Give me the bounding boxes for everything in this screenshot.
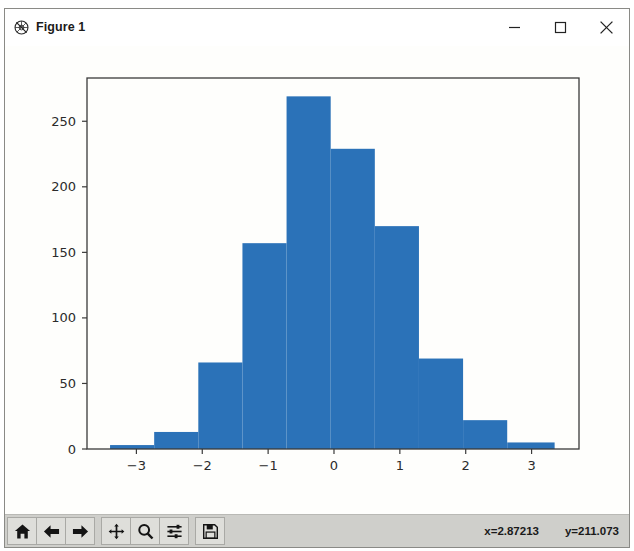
x-tick-label: −3 [127, 458, 146, 473]
pan-move-icon[interactable] [101, 517, 131, 545]
coord-y-value: y=211.073 [565, 525, 619, 537]
figure-canvas[interactable]: −3−2−10123 050100150200250 [5, 46, 629, 514]
window-controls [491, 9, 629, 45]
histogram-bar [507, 442, 554, 449]
y-tick-label: 100 [51, 310, 76, 325]
x-tick-label: 3 [527, 458, 535, 473]
histogram-bar [287, 96, 331, 449]
histogram-bar [154, 432, 198, 449]
maximize-icon[interactable] [537, 9, 583, 45]
coord-x-value: x=2.87213 [484, 525, 539, 537]
close-icon[interactable] [583, 9, 629, 45]
coordinate-readout: x=2.87213 y=211.073 [484, 515, 619, 547]
histogram-bar [419, 359, 463, 449]
y-tick-label: 150 [51, 245, 76, 260]
back-arrow-icon[interactable] [36, 517, 66, 545]
matplotlib-logo-icon [14, 20, 29, 35]
save-group [195, 517, 224, 545]
toolbar-separator [94, 517, 101, 545]
x-tick-label: 2 [462, 458, 470, 473]
home-icon[interactable] [7, 517, 37, 545]
histogram-bar [375, 226, 419, 449]
x-tick-label: 0 [330, 458, 338, 473]
histogram-bars [110, 96, 555, 449]
x-tick-label: −1 [259, 458, 278, 473]
configure-subplots-icon[interactable] [159, 517, 189, 545]
nav-tools-group [101, 517, 188, 545]
x-tick-label: −2 [193, 458, 212, 473]
y-tick-label: 200 [51, 179, 76, 194]
histogram-plot[interactable]: −3−2−10123 050100150200250 [5, 46, 629, 512]
y-tick-label: 50 [59, 376, 76, 391]
window-title-group: Figure 1 [5, 20, 85, 35]
nav-history-group [7, 517, 94, 545]
x-tick-label: 1 [396, 458, 404, 473]
window-title-label: Figure 1 [36, 20, 85, 34]
save-floppy-icon[interactable] [195, 517, 225, 545]
y-tick-label: 0 [68, 442, 76, 457]
x-axis-ticks: −3−2−10123 [127, 449, 536, 473]
toolbar-separator-2 [188, 517, 195, 545]
window-title-bar: Figure 1 [5, 9, 629, 46]
histogram-bar [198, 362, 242, 449]
figure-window: Figure 1 [4, 8, 630, 548]
forward-arrow-icon[interactable] [65, 517, 95, 545]
y-tick-label: 250 [51, 114, 76, 129]
y-axis-ticks: 050100150200250 [51, 114, 87, 457]
navigation-toolbar: x=2.87213 y=211.073 [5, 514, 629, 547]
minimize-icon[interactable] [491, 9, 537, 45]
zoom-magnifier-icon[interactable] [130, 517, 160, 545]
histogram-bar [331, 149, 375, 449]
histogram-bar [463, 420, 507, 449]
histogram-bar [242, 243, 286, 449]
